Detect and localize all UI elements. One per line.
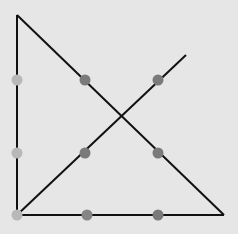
dot-3: [153, 75, 164, 86]
dot-4: [12, 148, 23, 159]
dot-5: [80, 148, 91, 159]
solution-lines: [17, 15, 224, 215]
dot-6: [153, 148, 164, 159]
dot-8: [82, 210, 93, 221]
dot-7: [12, 210, 23, 221]
dot-9: [153, 210, 164, 221]
dot-1: [12, 75, 23, 86]
dot-2: [80, 75, 91, 86]
nine-dots-diagram: [0, 0, 238, 234]
